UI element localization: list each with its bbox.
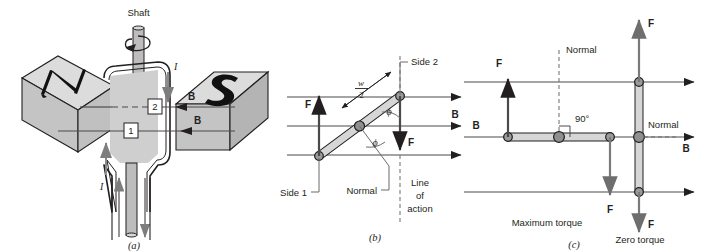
panel-c-caption: (c) bbox=[568, 239, 580, 251]
maximum-torque-label: Maximum torque bbox=[512, 217, 583, 228]
half-width-numerator: w bbox=[358, 78, 364, 88]
side2-callout: Side 2 bbox=[400, 56, 438, 92]
force-arrow-down: F bbox=[400, 96, 414, 150]
force-label-mid-down: F bbox=[607, 204, 613, 215]
panel-c: B B F bbox=[462, 0, 702, 251]
force-top-up-c: F bbox=[639, 18, 654, 82]
zero-torque-label: Zero torque bbox=[615, 234, 664, 245]
normal-callout: Normal bbox=[346, 180, 389, 196]
panel-c-svg: B B F bbox=[462, 0, 702, 251]
force-label-down: F bbox=[408, 137, 414, 148]
force-left-up-c: F bbox=[496, 58, 508, 137]
field-label-upper: B bbox=[188, 91, 195, 102]
normal-label-left-c: Normal bbox=[566, 44, 597, 55]
normal-line bbox=[360, 126, 390, 180]
line-of-action-line3: action bbox=[407, 203, 432, 214]
panel-b-svg: B F F bbox=[285, 0, 465, 251]
shaft-label: Shaft bbox=[127, 7, 150, 18]
line-of-action-line1: Line bbox=[411, 177, 429, 188]
panel-b-caption: (b) bbox=[369, 232, 382, 244]
field-label-right-c: B bbox=[682, 143, 689, 154]
line-of-action-label: Line of action bbox=[407, 177, 432, 214]
panel-a: Shaft bbox=[0, 0, 285, 251]
shaft-bottom bbox=[126, 163, 137, 237]
coil-vertical bbox=[634, 78, 645, 197]
line-of-action-line2: of bbox=[416, 190, 424, 201]
side-marker-2-label: 2 bbox=[152, 101, 157, 112]
panel-a-caption: (a) bbox=[128, 240, 141, 251]
side-marker-2: 2 bbox=[148, 99, 162, 114]
right-angle-label: 90° bbox=[575, 113, 590, 124]
half-width-denominator: 2 bbox=[359, 90, 364, 100]
angle-label-upper: ϕ bbox=[386, 106, 391, 117]
panel-b: B F F bbox=[285, 0, 465, 251]
angle-label-lower: ϕ bbox=[372, 137, 377, 148]
side-marker-1: 1 bbox=[124, 123, 138, 138]
force-label-bottom-down: F bbox=[648, 219, 654, 230]
force-bottom-down-c: F bbox=[639, 192, 654, 232]
magnet-north bbox=[22, 56, 114, 152]
normal-label-b: Normal bbox=[346, 185, 377, 196]
side1-label: Side 1 bbox=[280, 187, 307, 198]
field-label-b: B bbox=[451, 109, 458, 120]
side-marker-1-label: 1 bbox=[128, 125, 133, 136]
field-label-lower: B bbox=[194, 115, 201, 126]
side1-callout: Side 1 bbox=[280, 158, 319, 198]
panel-a-svg: Shaft bbox=[0, 0, 285, 251]
magnet-south bbox=[176, 72, 268, 150]
force-label-left-up: F bbox=[496, 58, 502, 69]
side2-label: Side 2 bbox=[411, 56, 438, 67]
normal-right-c: Normal bbox=[644, 119, 679, 137]
force-label-up: F bbox=[305, 99, 311, 110]
force-mid-down-c: F bbox=[607, 137, 613, 215]
field-label-left-c: B bbox=[472, 120, 479, 131]
coil-horizontal bbox=[504, 132, 615, 143]
figure-root: Shaft bbox=[0, 0, 702, 251]
normal-label-right-c: Normal bbox=[648, 119, 679, 130]
force-label-top-up: F bbox=[648, 18, 654, 29]
current-label-right: I bbox=[173, 61, 178, 72]
current-label-left: I bbox=[99, 181, 104, 192]
